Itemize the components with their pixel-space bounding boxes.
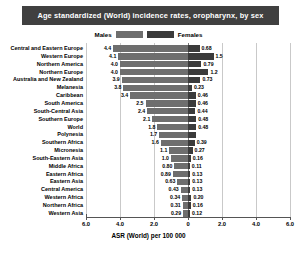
- plot-area: Central and Eastern Europe4.40.68Western…: [0, 43, 297, 217]
- bar-male: [161, 140, 188, 146]
- axis-tick: [290, 217, 291, 220]
- bar-male: [152, 116, 188, 122]
- bar-female: [188, 69, 208, 75]
- chart-legend: Males Females: [0, 29, 297, 40]
- legend-swatch-females: [147, 31, 174, 38]
- bar-female: [188, 210, 190, 216]
- bar-female: [188, 147, 193, 153]
- bar-female: [188, 77, 200, 83]
- legend-label-females: Females: [178, 31, 203, 38]
- legend-label-males: Males: [95, 31, 112, 38]
- axis-tick-label: 2.0: [210, 221, 234, 227]
- bar-male: [118, 53, 188, 59]
- axis-tick: [256, 217, 257, 220]
- bar-female: [188, 116, 196, 122]
- axis-tick-label: 4.0: [108, 221, 132, 227]
- bar-male: [147, 108, 188, 114]
- bar-female: [188, 100, 196, 106]
- bar-female: [188, 85, 192, 91]
- bar-male: [120, 69, 188, 75]
- bar-male: [113, 45, 188, 51]
- bar-male: [169, 147, 188, 153]
- axis-tick-label: 0: [176, 221, 200, 227]
- chart-title-banner: Age standardized (World) incidence rates…: [22, 6, 279, 25]
- bar-female: [188, 140, 195, 146]
- category-label: Western Asia: [48, 209, 83, 218]
- bar-male: [157, 124, 188, 130]
- bar-female: [188, 132, 196, 138]
- bar-female: [188, 155, 191, 161]
- bar-female: [188, 61, 201, 67]
- legend-swatch-males: [116, 31, 143, 38]
- bar-female: [188, 187, 190, 193]
- bar-female: [188, 202, 191, 208]
- bar-female: [188, 124, 196, 130]
- axis-tick: [188, 217, 189, 220]
- bar-male: [171, 155, 188, 161]
- bar-female: [188, 45, 200, 51]
- page-title: Age standardized (World) incidence rates…: [37, 11, 263, 20]
- bar-male: [120, 61, 188, 67]
- bar-male: [159, 132, 188, 138]
- bar-male: [173, 171, 188, 177]
- bar-female: [188, 92, 196, 98]
- axis-tick-label: 2.0: [142, 221, 166, 227]
- axis-tick-label: 4.0: [244, 221, 268, 227]
- bar-female: [188, 195, 191, 201]
- bar-female: [188, 171, 190, 177]
- bar-female: [188, 108, 195, 114]
- axis-tick-label: 6.0: [74, 221, 98, 227]
- axis-tick: [120, 217, 121, 220]
- bar-male: [146, 100, 189, 106]
- axis-tick: [86, 217, 87, 220]
- axis-tick: [154, 217, 155, 220]
- bar-female: [188, 53, 214, 59]
- bar-male: [177, 179, 188, 185]
- axis-tick-label: 6.0: [278, 221, 297, 227]
- bar-male: [122, 77, 188, 83]
- chart-container: Age standardized (World) incidence rates…: [0, 0, 297, 255]
- bar-male: [174, 163, 188, 169]
- bar-male: [130, 92, 188, 98]
- axis-tick: [222, 217, 223, 220]
- bar-male: [123, 85, 188, 91]
- x-axis-title: ASR (World) per 100 000: [0, 232, 297, 239]
- bar-female: [188, 163, 190, 169]
- bar-male: [181, 187, 188, 193]
- bar-female: [188, 179, 190, 185]
